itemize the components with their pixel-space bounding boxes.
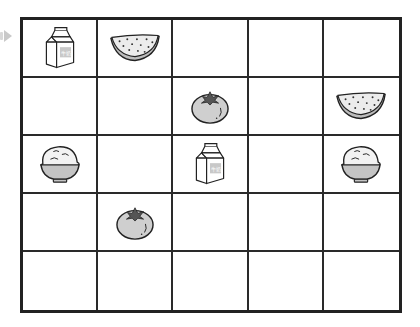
grid-cell-r3-c2[interactable] — [98, 136, 173, 194]
rice-icon — [338, 143, 384, 185]
food-grid — [20, 17, 402, 313]
grid-cell-r1-c2[interactable] — [98, 20, 173, 78]
grid-cell-r2-c4[interactable] — [249, 78, 324, 136]
grid-cell-r2-c5[interactable] — [324, 78, 399, 136]
grid-cell-r2-c3[interactable] — [173, 78, 248, 136]
grid-cell-r3-c5[interactable] — [324, 136, 399, 194]
grid-cell-r3-c1[interactable] — [23, 136, 98, 194]
milk-icon — [43, 25, 77, 71]
grid-cell-r2-c1[interactable] — [23, 78, 98, 136]
grid-cell-r1-c4[interactable] — [249, 20, 324, 78]
grid-cell-r1-c3[interactable] — [173, 20, 248, 78]
grid-cell-r5-c5[interactable] — [324, 252, 399, 310]
grid-cell-r5-c2[interactable] — [98, 252, 173, 310]
grid-cell-r3-c3[interactable] — [173, 136, 248, 194]
grid-cell-r5-c3[interactable] — [173, 252, 248, 310]
grid-cell-r4-c4[interactable] — [249, 194, 324, 252]
watermelon-icon — [108, 32, 162, 64]
grid-cell-r4-c5[interactable] — [324, 194, 399, 252]
grid-cell-r4-c2[interactable] — [98, 194, 173, 252]
grid-cell-r4-c1[interactable] — [23, 194, 98, 252]
grid-cell-r2-c2[interactable] — [98, 78, 173, 136]
grid-cell-r1-c1[interactable] — [23, 20, 98, 78]
watermelon-icon — [334, 90, 388, 122]
milk-icon — [193, 141, 227, 187]
play-arrow-icon — [4, 30, 12, 42]
grid-cell-r3-c4[interactable] — [249, 136, 324, 194]
grid-cell-r4-c3[interactable] — [173, 194, 248, 252]
start-marker-dot — [0, 32, 3, 40]
grid-cell-r5-c1[interactable] — [23, 252, 98, 310]
tomato-icon — [114, 203, 156, 241]
grid-cell-r5-c4[interactable] — [249, 252, 324, 310]
tomato-icon — [189, 87, 231, 125]
rice-icon — [37, 143, 83, 185]
grid-cell-r1-c5[interactable] — [324, 20, 399, 78]
